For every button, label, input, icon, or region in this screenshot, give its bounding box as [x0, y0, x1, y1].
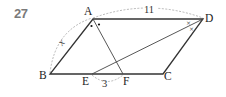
measure-label-ad: 11 [144, 4, 154, 15]
vertex-label-a: A [84, 5, 93, 17]
vertex-label-d: D [205, 12, 213, 24]
angle-mark-dot-icon [98, 23, 100, 25]
angle-mark-dot-icon [90, 25, 92, 27]
parallelogram-abcd [50, 19, 203, 74]
vertex-label-c: C [164, 70, 172, 82]
segment-de [92, 19, 203, 74]
measure-arc-ab [50, 18, 92, 73]
angle-mark-cross-icon: × [189, 25, 194, 32]
measure-arc-ef [92, 75, 123, 82]
point-label-e: E [82, 75, 89, 87]
parallelogram-diagram: × × A B C D E F 11 x 3 [0, 0, 226, 97]
measure-label-ab: x [55, 37, 67, 49]
measure-label-ef: 3 [102, 78, 107, 89]
point-label-f: F [123, 75, 129, 87]
vertex-label-b: B [39, 69, 47, 81]
